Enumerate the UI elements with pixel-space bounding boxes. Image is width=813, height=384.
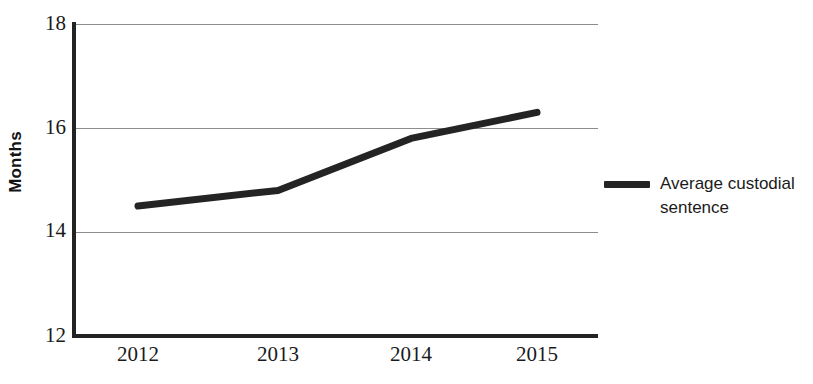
x-tick-label-2013: 2013 xyxy=(223,344,333,365)
x-tick-label-2015: 2015 xyxy=(482,344,592,365)
series-average-custodial-sentence xyxy=(72,24,598,336)
legend: Average custodial sentence xyxy=(604,172,809,220)
plot-area xyxy=(72,24,598,336)
x-tick-label-2012: 2012 xyxy=(83,344,193,365)
legend-label-average-custodial-sentence: Average custodial sentence xyxy=(660,172,808,220)
line-chart: Months 18 16 14 12 2012 2013 2014 2015 A… xyxy=(0,0,813,384)
x-tick-label-2014: 2014 xyxy=(356,344,466,365)
legend-swatch-line-icon xyxy=(604,181,650,188)
